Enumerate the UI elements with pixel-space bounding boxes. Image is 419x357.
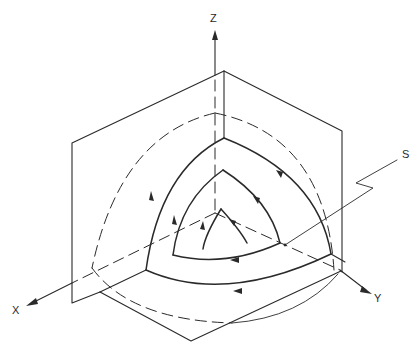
middle-loop-bottom bbox=[173, 243, 280, 259]
inner-loop-arrow-left bbox=[200, 221, 205, 230]
middle-loop-arrow-right bbox=[253, 196, 260, 204]
diagram-canvas: Z X Y S bbox=[0, 0, 419, 357]
y-axis-label: Y bbox=[374, 292, 382, 304]
x-axis bbox=[32, 283, 72, 303]
outer-loop-right bbox=[224, 138, 331, 254]
plane-xz bbox=[72, 71, 224, 303]
z-axis-arrowhead bbox=[212, 30, 218, 40]
outer-loop-arrow-bottom bbox=[233, 288, 242, 294]
plane-xy bbox=[100, 271, 341, 341]
z-axis-label: Z bbox=[210, 12, 217, 24]
sphere-arc-xz bbox=[92, 113, 215, 268]
x-axis-arrowhead bbox=[26, 298, 38, 306]
y-axis-arrowhead bbox=[360, 286, 372, 294]
outer-loop-arrow-left bbox=[149, 191, 154, 201]
x-axis-dashed bbox=[72, 213, 215, 283]
surface-label: S bbox=[402, 148, 409, 160]
middle-loop-right bbox=[223, 170, 280, 243]
middle-loop-arrow-left bbox=[172, 215, 177, 225]
sphere-arc-yz bbox=[215, 113, 334, 270]
x-axis-label: X bbox=[12, 304, 20, 316]
outer-loop-left bbox=[146, 138, 224, 270]
floor-edge-left bbox=[100, 270, 146, 292]
surface-leader-line bbox=[285, 160, 397, 245]
